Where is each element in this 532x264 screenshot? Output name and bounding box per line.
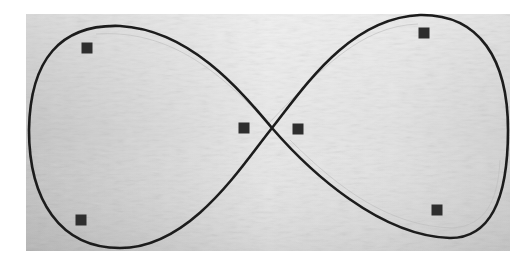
square-marker-bottom-left [76,215,87,226]
photo-scene [0,0,532,264]
square-marker-bottom-right [432,205,443,216]
square-marker-center-right [293,124,304,135]
square-marker-center-left [239,123,250,134]
square-marker-top-left [82,43,93,54]
square-marker-top-right [419,28,430,39]
figure-eight-photo [0,0,532,264]
